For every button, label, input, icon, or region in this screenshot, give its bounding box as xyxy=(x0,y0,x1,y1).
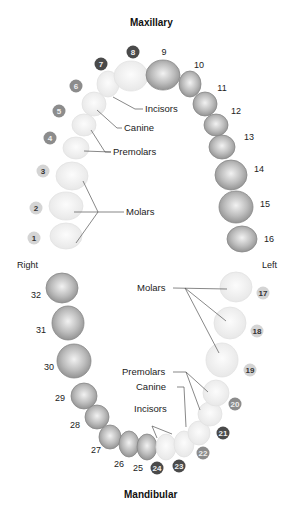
lower-incisors-label: Incisors xyxy=(134,403,167,414)
mandibular-title: Mandibular xyxy=(124,489,177,500)
tooth-badge-3: 3 xyxy=(37,165,50,178)
tooth-badge-5: 5 xyxy=(53,105,66,118)
upper-molars-label: Molars xyxy=(126,206,155,217)
tooth-number-11: 11 xyxy=(217,83,226,93)
tooth-number-28: 28 xyxy=(70,420,80,430)
tooth-number-32: 32 xyxy=(31,290,41,300)
tooth-number-10: 10 xyxy=(194,60,204,70)
tooth-badge-6: 6 xyxy=(70,80,83,93)
left-side-label: Left xyxy=(262,260,277,270)
tooth-badge-19: 19 xyxy=(244,364,257,377)
upper-incisors-label: Incisors xyxy=(145,103,178,114)
tooth-number-16: 16 xyxy=(264,234,274,244)
tooth-number-29: 29 xyxy=(55,393,65,403)
tooth-number-31: 31 xyxy=(36,325,46,335)
tooth-number-9: 9 xyxy=(161,47,166,57)
tooth-badge-17: 17 xyxy=(257,287,270,300)
lower-molars-label: Molars xyxy=(137,282,166,293)
lower-premolars-label: Premolars xyxy=(122,366,165,377)
tooth-badge-21: 21 xyxy=(217,427,230,440)
dental-arch-drawing xyxy=(0,0,295,509)
tooth-badge-23: 23 xyxy=(173,460,186,473)
maxillary-title: Maxillary xyxy=(130,17,173,28)
tooth-number-26: 26 xyxy=(114,459,124,469)
tooth-number-13: 13 xyxy=(244,132,254,142)
upper-canine-label: Canine xyxy=(124,122,154,133)
tooth-badge-18: 18 xyxy=(251,325,264,338)
tooth-badge-1: 1 xyxy=(28,232,41,245)
tooth-number-27: 27 xyxy=(91,445,101,455)
upper-premolars-label: Premolars xyxy=(113,146,156,157)
tooth-number-15: 15 xyxy=(260,199,270,209)
right-side-label: Right xyxy=(17,260,38,270)
tooth-badge-20: 20 xyxy=(229,398,242,411)
tooth-number-30: 30 xyxy=(44,362,54,372)
tooth-badge-24: 24 xyxy=(151,462,164,475)
tooth-badge-8: 8 xyxy=(127,46,140,59)
tooth-badge-4: 4 xyxy=(44,132,57,145)
lower-left-teeth-faded xyxy=(156,272,252,460)
tooth-number-12: 12 xyxy=(231,106,241,116)
tooth-badge-22: 22 xyxy=(197,447,210,460)
tooth-number-25: 25 xyxy=(133,463,143,473)
tooth-number-14: 14 xyxy=(254,164,264,174)
upper-left-teeth-shaded xyxy=(146,60,257,252)
lower-canine-label: Canine xyxy=(136,381,166,392)
tooth-badge-2: 2 xyxy=(30,202,43,215)
tooth-badge-7: 7 xyxy=(95,58,108,71)
